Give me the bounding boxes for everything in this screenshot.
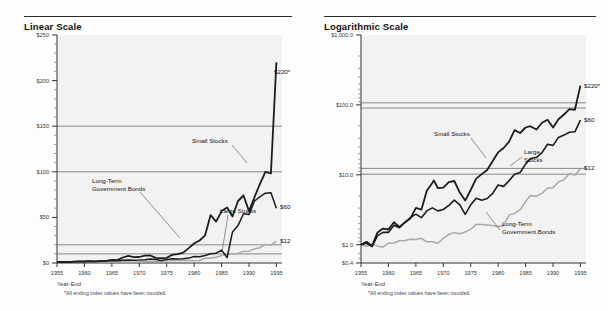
end-label-large-stocks: $60 bbox=[584, 116, 595, 123]
plot-area-log: $1,000.0 $100.0 $10.0 $1.0 $0.4 1955 196… bbox=[304, 0, 608, 311]
plot-area-linear: $250 $200 $150 $100 $50 $0 1955 1960 196… bbox=[0, 0, 304, 311]
x-tick-labels: 1955 1960 1965 1970 1975 1980 1985 1990 … bbox=[51, 270, 283, 276]
x-tick-label: 1990 bbox=[547, 270, 559, 276]
y-tick-label: $1,000.0 bbox=[331, 32, 353, 38]
x-major-ticks bbox=[57, 263, 276, 267]
x-tick-label: 1990 bbox=[243, 270, 255, 276]
x-tick-label: 1995 bbox=[270, 270, 282, 276]
y-tick-label: $200 bbox=[37, 78, 49, 84]
x-tick-label: 1955 bbox=[51, 270, 63, 276]
log-chart-svg: $1,000.0 $100.0 $10.0 $1.0 $0.4 1955 196… bbox=[304, 0, 608, 311]
annotation-small-stocks: Small Stocks bbox=[434, 130, 470, 137]
x-tick-label: 1960 bbox=[382, 270, 394, 276]
x-axis-title: Year-End bbox=[361, 281, 385, 287]
annotation-gov-bonds-line2: Government Bonds bbox=[502, 228, 555, 235]
footnote: *All ending index values have been round… bbox=[64, 290, 167, 296]
end-label-small-stocks: $220* bbox=[584, 82, 601, 89]
x-tick-labels: 1955 1960 1965 1970 1975 1980 1985 1990 … bbox=[355, 270, 587, 276]
end-label-gov-bonds: $12 bbox=[280, 237, 291, 244]
linear-chart-svg: $250 $200 $150 $100 $50 $0 1955 1960 196… bbox=[0, 0, 304, 311]
x-tick-label: 1960 bbox=[78, 270, 90, 276]
annotation-gov-bonds-line1: Long-Term bbox=[92, 177, 122, 184]
figure-root: Linear Scale bbox=[0, 0, 608, 311]
y-tick-label: $250 bbox=[37, 32, 49, 38]
panel-logarithmic-scale: Logarithmic Scale bbox=[304, 0, 608, 311]
x-tick-label: 1970 bbox=[437, 270, 449, 276]
y-tick-label: $10.0 bbox=[339, 172, 353, 178]
x-tick-label: 1995 bbox=[574, 270, 586, 276]
y-tick-label: $150 bbox=[37, 123, 49, 129]
x-tick-label: 1985 bbox=[215, 270, 227, 276]
x-tick-label: 1980 bbox=[492, 270, 504, 276]
x-tick-label: 1955 bbox=[355, 270, 367, 276]
annotation-large-stocks-line2: Stocks bbox=[524, 156, 543, 163]
y-tick-labels: $250 $200 $150 $100 $50 $0 bbox=[37, 32, 49, 266]
end-label-gov-bonds: $12 bbox=[584, 164, 595, 171]
y-tick-label: $100 bbox=[37, 169, 49, 175]
footnote: *All ending index values have been round… bbox=[368, 290, 471, 296]
x-tick-label: 1975 bbox=[160, 270, 172, 276]
panel-linear-scale: Linear Scale bbox=[0, 0, 304, 311]
x-tick-label: 1965 bbox=[106, 270, 118, 276]
x-tick-label: 1985 bbox=[519, 270, 531, 276]
x-tick-label: 1965 bbox=[410, 270, 422, 276]
x-tick-label: 1970 bbox=[133, 270, 145, 276]
x-tick-label: 1975 bbox=[464, 270, 476, 276]
annotation-gov-bonds-line2: Government Bonds bbox=[92, 185, 145, 192]
x-major-ticks bbox=[361, 263, 580, 267]
y-tick-label: $50 bbox=[40, 214, 49, 220]
annotation-large-stocks-line1: Large bbox=[524, 148, 540, 155]
end-label-small-stocks: $220* bbox=[274, 68, 291, 75]
end-label-large-stocks: $60 bbox=[280, 203, 291, 210]
y-major-ticks bbox=[52, 35, 57, 263]
annotation-gov-bonds-line1: Long-Term bbox=[502, 220, 532, 227]
annotation-small-stocks: Small Stocks bbox=[192, 137, 228, 144]
y-tick-label: $0 bbox=[43, 260, 49, 266]
plot-background bbox=[57, 35, 282, 263]
x-axis-title: Year-End bbox=[57, 281, 81, 287]
y-tick-label: $100.0 bbox=[336, 102, 353, 108]
annotation-large-stocks: Large Stocks bbox=[220, 207, 256, 214]
y-tick-label: $1.0 bbox=[342, 242, 353, 248]
x-tick-label: 1980 bbox=[188, 270, 200, 276]
y-tick-labels: $1,000.0 $100.0 $10.0 $1.0 $0.4 bbox=[331, 32, 353, 266]
y-tick-label: $0.4 bbox=[342, 260, 353, 266]
